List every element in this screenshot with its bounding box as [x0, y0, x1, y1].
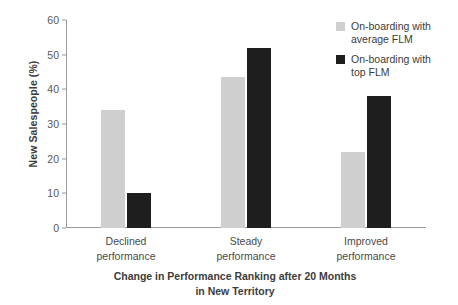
- x-tick-label-line-1: Declined: [97, 234, 156, 249]
- legend-label-line-2: average FLM: [351, 33, 431, 46]
- x-tick-label: Declinedperformance: [97, 234, 156, 263]
- y-tick-label: 0: [53, 222, 59, 234]
- bar-group: [206, 20, 286, 228]
- x-tick-label-line-1: Improved: [337, 234, 396, 249]
- bar: [367, 96, 391, 228]
- bar-chart: New Salespeople (%) 0102030405060 Declin…: [0, 0, 458, 305]
- legend-label-line-1: On-boarding with: [351, 53, 431, 66]
- legend-swatch: [336, 55, 345, 64]
- x-tick-label-line-2: performance: [217, 249, 276, 264]
- y-tick-label: 50: [47, 49, 59, 61]
- x-axis-tick-labels: DeclinedperformanceSteadyperformanceImpr…: [66, 234, 426, 268]
- y-tick-label: 10: [47, 187, 59, 199]
- y-tick-label: 30: [47, 118, 59, 130]
- x-tick-label-line-1: Steady: [217, 234, 276, 249]
- y-tick-label: 60: [47, 14, 59, 26]
- legend-label-line-2: top FLM: [351, 66, 431, 79]
- x-tick-label: Improvedperformance: [337, 234, 396, 263]
- legend-item[interactable]: On-boarding withaverage FLM: [336, 20, 458, 46]
- x-tick-label: Steadyperformance: [217, 234, 276, 263]
- x-axis-title: Change in Performance Ranking after 20 M…: [40, 269, 430, 298]
- y-axis-title: New Salespeople (%): [27, 34, 39, 194]
- x-axis-title-line-1: Change in Performance Ranking after 20 M…: [40, 269, 430, 284]
- chart-legend: On-boarding withaverage FLMOn-boarding w…: [336, 20, 458, 86]
- legend-label: On-boarding withtop FLM: [351, 53, 431, 79]
- bar: [247, 48, 271, 228]
- legend-label: On-boarding withaverage FLM: [351, 20, 431, 46]
- y-tick-label: 20: [47, 153, 59, 165]
- x-tick-label-line-2: performance: [97, 249, 156, 264]
- x-tick-label-line-2: performance: [337, 249, 396, 264]
- legend-swatch: [336, 22, 345, 31]
- bar: [127, 193, 151, 228]
- legend-label-line-1: On-boarding with: [351, 20, 431, 33]
- y-tick-label: 40: [47, 83, 59, 95]
- bar: [101, 110, 125, 228]
- bar: [221, 77, 245, 228]
- bar: [341, 152, 365, 228]
- bar-group: [86, 20, 166, 228]
- legend-item[interactable]: On-boarding withtop FLM: [336, 53, 458, 79]
- x-axis-title-line-2: in New Territory: [40, 284, 430, 299]
